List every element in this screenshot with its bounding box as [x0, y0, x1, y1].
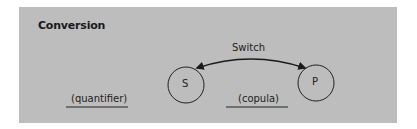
conversion-diagram	[0, 0, 417, 129]
switch-arrow	[197, 59, 305, 68]
quantifier-label: (quantifier)	[71, 93, 127, 104]
copula-label: (copula)	[238, 93, 279, 104]
switch-label: Switch	[232, 42, 265, 53]
predicate-node-label: P	[312, 76, 318, 87]
subject-node-label: S	[182, 78, 188, 89]
